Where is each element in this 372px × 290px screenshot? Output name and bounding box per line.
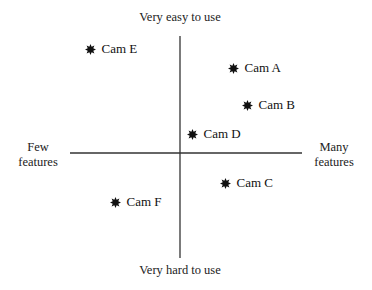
axis-label-left: Few features — [8, 140, 68, 170]
data-point: Cam F — [110, 194, 162, 210]
axis-label-bottom: Very hard to use — [126, 263, 234, 278]
axis-label-right: Many features — [304, 140, 364, 170]
data-point: Cam D — [187, 126, 241, 142]
star-marker-icon — [85, 44, 96, 55]
star-marker-icon — [242, 100, 253, 111]
axis-label-right-line2: features — [304, 155, 364, 170]
data-point: Cam C — [220, 175, 273, 191]
data-point: Cam B — [242, 97, 295, 113]
axis-label-left-line1: Few — [8, 140, 68, 155]
point-label: Cam B — [259, 97, 295, 113]
axis-label-left-line2: features — [8, 155, 68, 170]
point-label: Cam C — [237, 175, 273, 191]
point-label: Cam E — [102, 41, 138, 57]
star-marker-icon — [228, 63, 239, 74]
star-marker-icon — [187, 129, 198, 140]
star-marker-icon — [220, 178, 231, 189]
perceptual-map: Very easy to use Very hard to use Few fe… — [0, 0, 372, 290]
data-point: Cam A — [228, 60, 281, 76]
point-label: Cam D — [204, 126, 241, 142]
axis-label-top: Very easy to use — [128, 10, 232, 25]
point-label: Cam F — [127, 194, 162, 210]
point-label: Cam A — [245, 60, 281, 76]
data-point: Cam E — [85, 41, 138, 57]
star-marker-icon — [110, 197, 121, 208]
axis-label-right-line1: Many — [304, 140, 364, 155]
